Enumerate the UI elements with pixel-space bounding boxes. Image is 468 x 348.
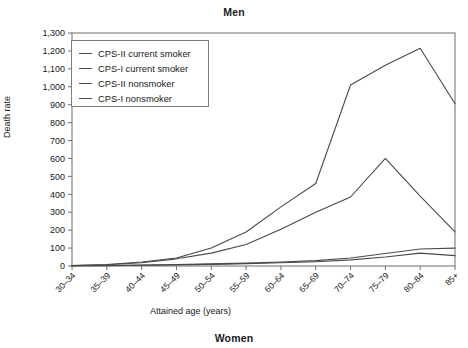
svg-text:800: 800 — [50, 118, 65, 128]
svg-text:0: 0 — [60, 261, 65, 271]
legend-line-swatch-icon — [79, 53, 92, 54]
chart-legend: CPS-II current smoker CPS-I current smok… — [71, 40, 209, 107]
legend-item-cps2-current-smoker: CPS-II current smoker — [79, 46, 208, 61]
svg-text:70–74: 70–74 — [332, 270, 356, 294]
svg-text:500: 500 — [50, 172, 65, 182]
svg-text:40–44: 40–44 — [123, 270, 147, 294]
legend-line-swatch-icon — [79, 68, 92, 69]
svg-text:75–79: 75–79 — [367, 270, 391, 294]
svg-text:55–59: 55–59 — [228, 270, 252, 294]
svg-text:700: 700 — [50, 136, 65, 146]
svg-text:50–54: 50–54 — [193, 270, 217, 294]
svg-text:900: 900 — [50, 100, 65, 110]
chart-title-women: Women — [0, 332, 468, 344]
legend-label: CPS-I nonsmoker — [98, 94, 172, 103]
svg-text:1,200: 1,200 — [42, 46, 65, 56]
legend-label: CPS-I current smoker — [98, 64, 188, 73]
svg-text:65–69: 65–69 — [297, 270, 321, 294]
svg-text:35–39: 35–39 — [88, 270, 112, 294]
svg-text:60–64: 60–64 — [262, 270, 286, 294]
svg-text:100: 100 — [50, 243, 65, 253]
legend-line-swatch-icon — [79, 83, 92, 84]
svg-text:400: 400 — [50, 190, 65, 200]
legend-item-cps2-nonsmoker: CPS-II nonsmoker — [79, 76, 208, 91]
svg-text:1,300: 1,300 — [42, 28, 65, 38]
svg-text:600: 600 — [50, 154, 65, 164]
svg-text:30–34: 30–34 — [53, 270, 77, 294]
svg-text:85+: 85+ — [443, 270, 460, 287]
x-tick-labels: 30–3435–3940–4445–4950–5455–5960–6465–69… — [53, 270, 460, 294]
legend-label: CPS-II nonsmoker — [98, 79, 175, 88]
legend-label: CPS-II current smoker — [98, 49, 191, 58]
svg-text:1,100: 1,100 — [42, 64, 65, 74]
svg-text:45–49: 45–49 — [158, 270, 182, 294]
svg-text:300: 300 — [50, 207, 65, 217]
legend-item-cps1-nonsmoker: CPS-I nonsmoker — [79, 91, 208, 106]
y-tick-labels: 01002003004005006007008009001,0001,1001,… — [42, 28, 65, 271]
figure-panel-men: Men Death rate Attained age (years) 0100… — [0, 0, 468, 348]
series-line-1 — [72, 158, 455, 265]
legend-item-cps1-current-smoker: CPS-I current smoker — [79, 61, 208, 76]
svg-text:80–84: 80–84 — [402, 270, 426, 294]
svg-text:1,000: 1,000 — [42, 82, 65, 92]
svg-text:200: 200 — [50, 225, 65, 235]
legend-line-swatch-icon — [79, 98, 92, 99]
